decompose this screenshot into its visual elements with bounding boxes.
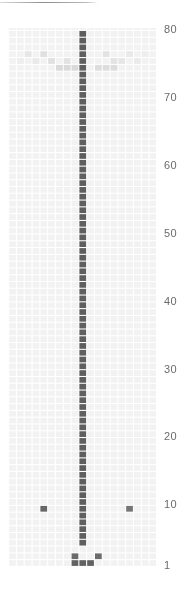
heatmap-figure: 80706050403020101	[0, 0, 191, 589]
y-axis-tick-label: 50	[164, 228, 177, 239]
y-axis-tick-label: 60	[164, 160, 177, 171]
heatmap-cells[interactable]	[8, 28, 156, 568]
top-divider-rule	[0, 2, 98, 3]
y-axis-tick-label: 30	[164, 364, 177, 375]
plot-area[interactable]	[8, 28, 156, 568]
y-axis-tick-label: 70	[164, 92, 177, 103]
y-axis-tick-label: 1	[164, 560, 170, 571]
y-axis: 80706050403020101	[158, 0, 191, 589]
y-axis-tick-label: 80	[164, 24, 177, 35]
y-axis-tick-label: 40	[164, 296, 177, 307]
y-axis-tick-label: 20	[164, 431, 177, 442]
y-axis-tick-label: 10	[164, 499, 177, 510]
